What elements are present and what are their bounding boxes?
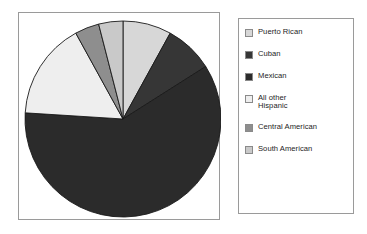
legend-swatch-icon bbox=[245, 146, 253, 154]
pie-chart-panel bbox=[18, 12, 220, 220]
pie-slice-group bbox=[25, 21, 221, 217]
legend-item-label: Central American bbox=[258, 123, 317, 131]
legend-item-label: Mexican bbox=[258, 72, 287, 80]
legend-swatch-icon bbox=[245, 51, 253, 59]
legend-item-label: South American bbox=[258, 145, 312, 153]
legend-panel: Puerto RicanCubanMexicanAll other Hispan… bbox=[238, 18, 354, 214]
legend-swatch-icon bbox=[245, 95, 253, 103]
legend-item-central-american: Central American bbox=[245, 123, 353, 132]
pie-chart-svg bbox=[19, 13, 221, 221]
legend-swatch-icon bbox=[245, 29, 253, 37]
legend-item-all-other-hispanic: All other Hispanic bbox=[245, 94, 353, 110]
pie-chart-figure: Puerto RicanCubanMexicanAll other Hispan… bbox=[0, 0, 367, 234]
legend-list: Puerto RicanCubanMexicanAll other Hispan… bbox=[239, 19, 353, 213]
legend-item-puerto-rican: Puerto Rican bbox=[245, 28, 353, 37]
legend-item-label: All other Hispanic bbox=[258, 94, 288, 110]
legend-item-mexican: Mexican bbox=[245, 72, 353, 81]
legend-item-south-american: South American bbox=[245, 145, 353, 154]
legend-item-cuban: Cuban bbox=[245, 50, 353, 59]
legend-swatch-icon bbox=[245, 73, 253, 81]
legend-item-label: Puerto Rican bbox=[258, 28, 303, 36]
legend-item-label: Cuban bbox=[258, 50, 281, 58]
legend-swatch-icon bbox=[245, 124, 253, 132]
